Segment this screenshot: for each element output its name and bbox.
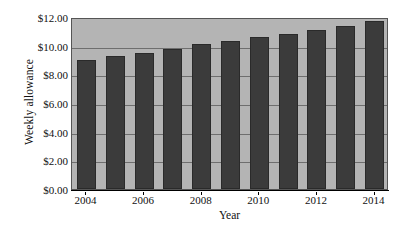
y-tick-label: $0.00 (24, 185, 68, 196)
bar (250, 37, 269, 189)
bar (307, 30, 326, 189)
x-axis-line (71, 190, 389, 191)
x-axis-title: Year (71, 209, 388, 221)
y-axis-tick-labels: $0.00$2.00$4.00$6.00$8.00$10.00$12.00 (24, 18, 68, 190)
x-tick-label: 2006 (123, 194, 163, 206)
bar (135, 53, 154, 189)
x-axis-tick-labels: 200420062008201020122014 (71, 192, 388, 208)
y-tick-label: $10.00 (24, 42, 68, 53)
x-tick-label: 2008 (181, 194, 221, 206)
x-tick-label: 2004 (65, 194, 105, 206)
bar (106, 56, 125, 189)
bar-chart: Weekly allowance $0.00$2.00$4.00$6.00$8.… (0, 0, 403, 241)
bar (77, 60, 96, 189)
bar (336, 26, 355, 189)
bar (192, 44, 211, 189)
x-tick-label: 2010 (238, 194, 278, 206)
bar (221, 41, 240, 189)
x-tick-label: 2012 (296, 194, 336, 206)
y-tick-label: $8.00 (24, 70, 68, 81)
y-tick-label: $12.00 (24, 13, 68, 24)
y-tick-label: $2.00 (24, 156, 68, 167)
bar (163, 49, 182, 189)
y-tick-label: $6.00 (24, 99, 68, 110)
plot-area (71, 18, 388, 190)
bar (279, 34, 298, 189)
bar (365, 21, 384, 189)
x-tick-label: 2014 (354, 194, 394, 206)
bars-layer (72, 19, 387, 189)
y-tick-label: $4.00 (24, 128, 68, 139)
